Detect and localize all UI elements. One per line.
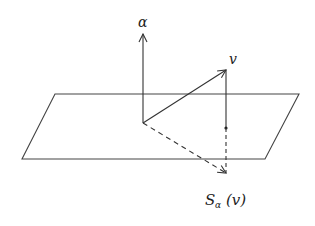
- reflection-label-subscript: α: [215, 200, 221, 210]
- reflected-vector: [143, 123, 226, 173]
- hyperplane: [22, 94, 299, 159]
- reflection-label-argument: (v): [226, 191, 246, 209]
- alpha-label: α: [138, 14, 148, 30]
- v-vector: [143, 70, 226, 123]
- v-label: v: [229, 51, 237, 67]
- reflection-diagram: α v S α (v): [0, 0, 315, 226]
- reflection-label-s: S: [205, 191, 215, 209]
